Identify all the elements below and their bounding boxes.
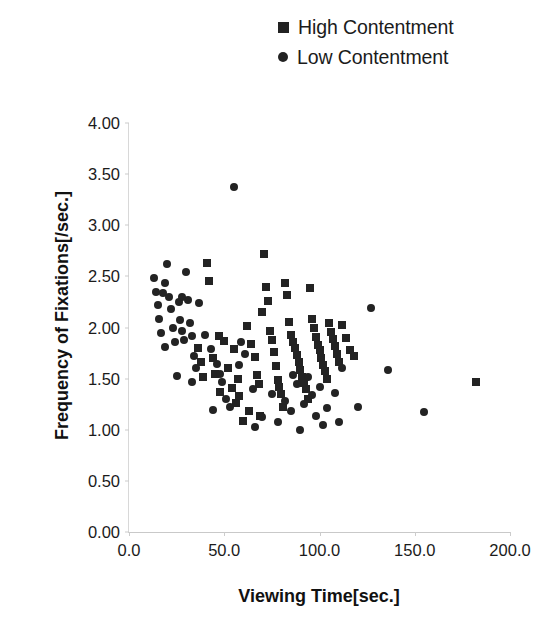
data-point-low-contentment — [226, 403, 234, 411]
data-point-low-contentment — [201, 331, 209, 339]
data-point-high-contentment — [262, 283, 270, 291]
data-point-low-contentment — [186, 319, 194, 327]
x-tick-label: 150.0 — [394, 532, 435, 560]
data-point-low-contentment — [190, 352, 198, 360]
data-point-low-contentment — [150, 274, 158, 282]
data-point-high-contentment — [306, 284, 314, 292]
data-point-high-contentment — [228, 384, 236, 392]
x-tick-mark — [129, 532, 130, 536]
legend-label-high-contentment: High Contentment — [298, 16, 454, 39]
data-point-high-contentment — [220, 337, 228, 345]
data-point-high-contentment — [325, 319, 333, 327]
data-point-low-contentment — [335, 418, 343, 426]
scatter-chart-figure: High Contentment Low Contentment Frequen… — [0, 0, 551, 635]
data-point-high-contentment — [203, 259, 211, 267]
data-point-low-contentment — [209, 406, 217, 414]
data-point-high-contentment — [316, 346, 324, 354]
y-tick-mark — [125, 480, 129, 481]
data-point-high-contentment — [308, 315, 316, 323]
data-point-high-contentment — [239, 417, 247, 425]
data-point-high-contentment — [281, 279, 289, 287]
data-point-high-contentment — [234, 375, 242, 383]
y-tick-mark — [125, 276, 129, 277]
data-point-low-contentment — [222, 395, 230, 403]
data-point-low-contentment — [213, 360, 221, 368]
data-points-layer — [129, 123, 510, 532]
data-point-low-contentment — [188, 378, 196, 386]
data-point-high-contentment — [253, 371, 261, 379]
data-point-low-contentment — [207, 345, 215, 353]
data-point-low-contentment — [258, 413, 266, 421]
y-tick-label: 2.00 — [88, 318, 129, 337]
data-point-low-contentment — [237, 338, 245, 346]
x-tick-mark — [320, 532, 321, 536]
data-point-low-contentment — [230, 183, 238, 191]
data-point-low-contentment — [161, 343, 169, 351]
data-point-low-contentment — [195, 299, 203, 307]
data-point-high-contentment — [247, 340, 255, 348]
data-point-low-contentment — [165, 293, 173, 301]
y-tick-label: 0.50 — [88, 471, 129, 490]
data-point-high-contentment — [323, 375, 331, 383]
data-point-low-contentment — [173, 372, 181, 380]
y-tick-mark — [125, 429, 129, 430]
data-point-low-contentment — [235, 361, 243, 369]
x-tick-mark — [415, 532, 416, 536]
data-point-low-contentment — [293, 380, 301, 388]
data-point-low-contentment — [331, 389, 339, 397]
data-point-low-contentment — [182, 268, 190, 276]
y-tick-mark — [125, 378, 129, 379]
data-point-low-contentment — [161, 279, 169, 287]
data-point-low-contentment — [167, 305, 175, 313]
data-point-high-contentment — [268, 336, 276, 344]
data-point-high-contentment — [333, 350, 341, 358]
y-tick-mark — [125, 174, 129, 175]
y-tick-label: 2.50 — [88, 267, 129, 286]
x-tick-label: 0.0 — [118, 532, 141, 560]
data-point-low-contentment — [157, 329, 165, 337]
data-point-high-contentment — [342, 334, 350, 342]
data-point-high-contentment — [295, 358, 303, 366]
x-tick-mark — [510, 532, 511, 536]
data-point-high-contentment — [245, 407, 253, 415]
data-point-low-contentment — [169, 324, 177, 332]
legend-item-high-contentment: High Contentment — [278, 14, 454, 40]
data-point-high-contentment — [272, 362, 280, 370]
chart-legend: High Contentment Low Contentment — [278, 14, 454, 70]
data-point-high-contentment — [472, 378, 480, 386]
data-point-low-contentment — [163, 260, 171, 268]
data-point-low-contentment — [178, 327, 186, 335]
data-point-high-contentment — [312, 333, 320, 341]
y-tick-mark — [125, 123, 129, 124]
data-point-high-contentment — [283, 291, 291, 299]
data-point-low-contentment — [420, 408, 428, 416]
data-point-low-contentment — [188, 332, 196, 340]
data-point-low-contentment — [304, 373, 312, 381]
data-point-low-contentment — [218, 378, 226, 386]
plot-area: 0.000.501.001.502.002.503.003.504.000.05… — [128, 123, 510, 533]
legend-square-marker-icon — [278, 22, 289, 33]
x-tick-label: 200.0 — [489, 532, 530, 560]
data-point-low-contentment — [171, 338, 179, 346]
data-point-high-contentment — [266, 327, 274, 335]
data-point-high-contentment — [310, 324, 318, 332]
data-point-low-contentment — [296, 426, 304, 434]
data-point-low-contentment — [354, 403, 362, 411]
data-point-low-contentment — [268, 390, 276, 398]
data-point-low-contentment — [176, 316, 184, 324]
data-point-low-contentment — [281, 397, 289, 405]
y-tick-label: 4.00 — [88, 114, 129, 133]
legend-label-low-contentment: Low Contentment — [297, 46, 448, 69]
x-tick-mark — [224, 532, 225, 536]
data-point-low-contentment — [241, 350, 249, 358]
legend-item-low-contentment: Low Contentment — [278, 44, 454, 70]
data-point-low-contentment — [367, 304, 375, 312]
data-point-low-contentment — [251, 423, 259, 431]
data-point-low-contentment — [300, 400, 308, 408]
data-point-low-contentment — [249, 385, 257, 393]
data-point-low-contentment — [180, 336, 188, 344]
data-point-low-contentment — [216, 370, 224, 378]
data-point-low-contentment — [316, 383, 324, 391]
data-point-low-contentment — [323, 404, 331, 412]
data-point-low-contentment — [308, 391, 316, 399]
